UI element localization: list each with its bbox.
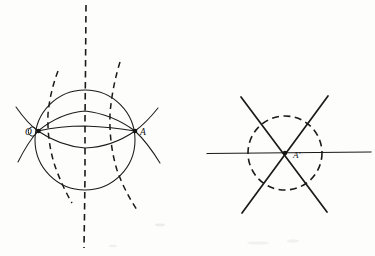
left-figure: O A — [16, 5, 160, 248]
right-figure: A' — [207, 96, 371, 213]
point-a-prime-marker — [283, 151, 288, 156]
dashed-arc-right — [110, 62, 137, 210]
horizontal-spoke-line — [207, 152, 371, 154]
point-label-a: A — [139, 127, 146, 137]
point-a-marker — [133, 129, 138, 134]
solid-lens-arc — [38, 126, 135, 131]
point-label-o: O — [25, 127, 32, 137]
solid-arc-upper — [16, 107, 158, 148]
diagram-canvas: O A A' — [0, 0, 375, 256]
point-label-a-prime: A' — [292, 150, 301, 160]
scan-artifacts — [109, 224, 299, 248]
